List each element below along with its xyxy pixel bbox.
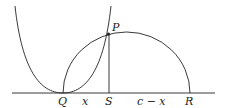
label-c-minus-x: c − x (137, 96, 166, 107)
point-P (107, 32, 110, 35)
diagram-graphics (0, 0, 227, 108)
semicircle-arc (63, 32, 190, 93)
label-P: P (112, 22, 119, 33)
label-S: S (105, 96, 113, 107)
parabola-curve (15, 6, 111, 93)
label-x: x (82, 96, 88, 107)
label-Q: Q (58, 96, 67, 107)
label-R: R (185, 96, 193, 107)
diagram: P Q x S c − x R (0, 0, 227, 108)
